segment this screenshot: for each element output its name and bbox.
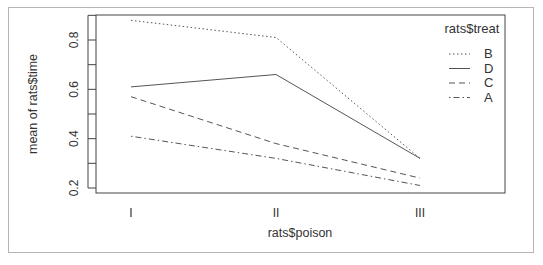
legend-label-A: A bbox=[484, 90, 493, 105]
x-axis-label: rats$poison bbox=[268, 226, 333, 240]
y-tick-label: 0.2 bbox=[67, 179, 81, 196]
interaction-plot: 0.20.40.60.8 IIIIII rats$treatBDCA rats$… bbox=[0, 0, 543, 265]
legend-title: rats$treat bbox=[445, 21, 500, 36]
y-axis: 0.20.40.60.8 bbox=[67, 15, 96, 196]
y-tick-label: 0.4 bbox=[67, 130, 81, 147]
y-tick-label: 0.6 bbox=[67, 81, 81, 98]
plot-box bbox=[96, 15, 505, 193]
legend: rats$treatBDCA bbox=[445, 21, 500, 105]
legend-label-B: B bbox=[484, 46, 493, 61]
x-axis: IIIIII bbox=[129, 206, 425, 220]
series-line-B bbox=[131, 20, 420, 158]
x-tick-label: II bbox=[273, 206, 280, 220]
series-line-C bbox=[131, 97, 420, 178]
series-line-D bbox=[131, 75, 420, 159]
legend-label-D: D bbox=[484, 61, 493, 76]
y-axis-label: mean of rats$time bbox=[26, 54, 40, 154]
y-tick-label: 0.8 bbox=[67, 31, 81, 48]
series-lines bbox=[131, 20, 420, 185]
x-tick-label: III bbox=[415, 206, 425, 220]
x-tick-label: I bbox=[129, 206, 132, 220]
legend-label-C: C bbox=[484, 75, 493, 90]
